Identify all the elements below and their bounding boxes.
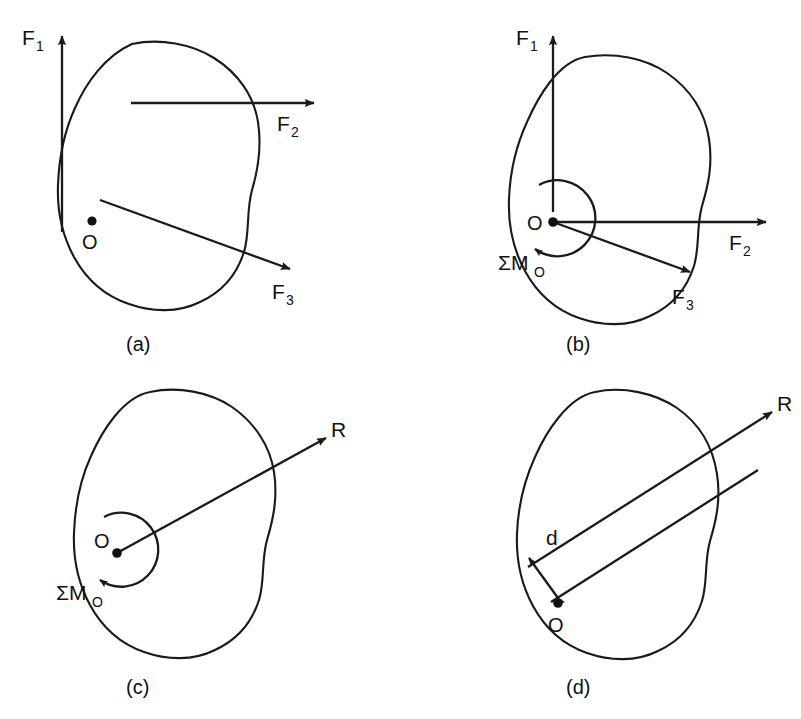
panel-caption-b: (b) xyxy=(566,333,590,355)
resultant-label-c: R xyxy=(331,418,346,441)
force-label-f3-b: F xyxy=(672,285,685,308)
point-o-marker-a xyxy=(87,216,96,225)
force-label-f1-a: F xyxy=(22,26,35,49)
force-label-f1-sub-a: 1 xyxy=(36,38,44,54)
moment-label-c: ΣM xyxy=(56,581,86,604)
panel-caption-a: (a) xyxy=(126,333,150,355)
force-label-f3-sub-a: 3 xyxy=(286,292,294,308)
force-label-f2-sub-b: 2 xyxy=(743,243,751,259)
reference-line-through-o-d xyxy=(551,470,758,602)
figure-container: F 1 F 2 F 3 O (a) F 1 F 2 F 3 ΣM xyxy=(0,0,801,719)
distance-label-d: d xyxy=(546,526,558,549)
panel-a: F 1 F 2 F 3 O (a) xyxy=(22,26,314,355)
rigid-body-outline-a xyxy=(58,42,260,310)
point-o-label-a: O xyxy=(82,231,98,253)
force-label-f2-b: F xyxy=(729,231,742,254)
panel-caption-d: (d) xyxy=(566,676,590,698)
point-o-marker-d xyxy=(553,598,563,608)
point-o-marker-c xyxy=(112,548,122,558)
force-label-f3-sub-b: 3 xyxy=(686,297,694,313)
panel-caption-c: (c) xyxy=(126,676,149,698)
moment-label-sub-b: O xyxy=(534,264,545,280)
resultant-vector-c xyxy=(117,438,326,553)
point-o-label-d: O xyxy=(548,614,564,636)
force-label-f2-a: F xyxy=(277,112,290,135)
force-label-f2-sub-a: 2 xyxy=(291,124,299,140)
force-label-f1-b: F xyxy=(516,26,529,49)
panel-d: R d O (d) xyxy=(517,390,792,698)
resultant-vector-d xyxy=(528,412,772,567)
point-o-marker-b xyxy=(548,217,558,227)
force-label-f3-a: F xyxy=(272,280,285,303)
resultant-label-d: R xyxy=(777,392,792,415)
rigid-body-outline-b xyxy=(509,55,711,324)
point-o-label-c: O xyxy=(94,530,110,552)
point-o-label-b: O xyxy=(527,212,543,234)
moment-label-b: ΣM xyxy=(498,251,528,274)
moment-label-sub-c: O xyxy=(92,594,103,610)
force-vector-f3-b xyxy=(553,222,690,272)
force-vector-f3-a xyxy=(100,200,290,269)
panel-b: F 1 F 2 F 3 ΣM O O (b) xyxy=(498,26,766,355)
rigid-body-outline-c xyxy=(74,390,276,658)
distance-dimension-d xyxy=(529,558,558,598)
force-diagram-svg: F 1 F 2 F 3 O (a) F 1 F 2 F 3 ΣM xyxy=(0,0,801,719)
panel-c: R ΣM O O (c) xyxy=(56,390,346,698)
force-label-f1-sub-b: 1 xyxy=(530,38,538,54)
moment-arc-b xyxy=(535,180,595,256)
